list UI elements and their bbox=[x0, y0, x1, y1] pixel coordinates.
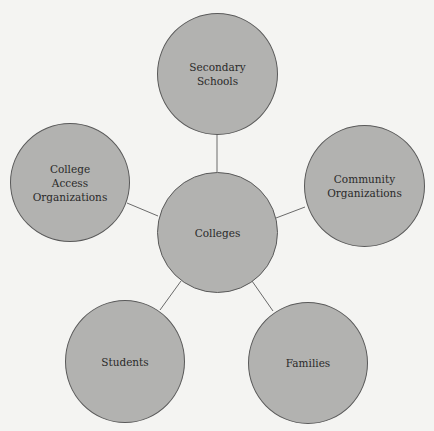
node-label: Secondary Schools bbox=[189, 60, 245, 88]
node-community-organizations: Community Organizations bbox=[304, 125, 425, 247]
node-college-access-organizations: College Access Organizations bbox=[10, 123, 130, 242]
node-label: Families bbox=[286, 356, 330, 370]
node-colleges: Colleges bbox=[157, 172, 278, 293]
node-label: Community Organizations bbox=[327, 172, 402, 200]
edge-students bbox=[160, 281, 181, 310]
edge-college-access-organizations bbox=[127, 203, 158, 216]
node-families: Families bbox=[248, 302, 368, 424]
edge-community-organizations bbox=[276, 207, 305, 218]
node-label: Colleges bbox=[195, 226, 241, 240]
node-students: Students bbox=[65, 300, 185, 423]
node-label: College Access Organizations bbox=[33, 162, 108, 204]
node-secondary-schools: Secondary Schools bbox=[157, 13, 278, 135]
node-label: Students bbox=[101, 355, 148, 369]
edge-families bbox=[252, 281, 273, 311]
